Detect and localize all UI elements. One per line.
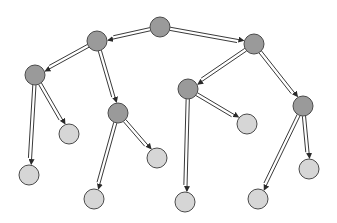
leaf-node-n13 <box>248 189 268 209</box>
edge-n1-n4 <box>98 50 116 102</box>
edge-n4-n9 <box>97 122 117 189</box>
edge-n4-n10 <box>123 120 151 149</box>
internal-node-n5 <box>178 79 198 99</box>
edges-layer <box>28 27 309 191</box>
edge-n3-n7 <box>28 85 36 164</box>
edge-n0-n1 <box>108 28 151 41</box>
edge-n6-n14 <box>302 116 309 158</box>
edge-n5-n11 <box>184 99 189 191</box>
leaf-node-n7 <box>19 165 39 185</box>
leaf-node-n10 <box>147 148 167 168</box>
edge-n0-n2 <box>170 27 244 42</box>
leaf-node-n11 <box>175 192 195 212</box>
edge-n1-n3 <box>45 44 89 71</box>
tree-diagram-canvas <box>0 0 337 223</box>
nodes-layer <box>19 17 319 212</box>
internal-node-n4 <box>108 103 128 123</box>
tree-diagram <box>0 0 337 223</box>
edge-n2-n6 <box>259 51 297 97</box>
internal-node-n6 <box>293 96 313 116</box>
edge-n5-n12 <box>196 93 239 117</box>
internal-node-n0 <box>150 17 170 37</box>
edge-n6-n13 <box>264 114 300 189</box>
leaf-node-n9 <box>84 189 104 209</box>
leaf-node-n12 <box>237 114 257 134</box>
leaf-node-n14 <box>299 159 319 179</box>
internal-node-n3 <box>25 65 45 85</box>
leaf-node-n8 <box>59 124 79 144</box>
edge-n3-n8 <box>39 83 65 124</box>
edge-n2-n5 <box>198 48 247 84</box>
internal-node-n1 <box>87 31 107 51</box>
internal-node-n2 <box>244 34 264 54</box>
